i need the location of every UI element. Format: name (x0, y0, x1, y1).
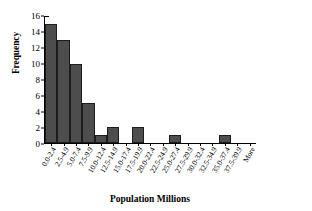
x-tick-label: More (242, 146, 257, 164)
bar-slot (181, 16, 193, 143)
bar (219, 135, 231, 143)
bar-slot (119, 16, 131, 143)
y-tick-mark (41, 128, 44, 129)
x-tick-slot: 2.5-4.9 (57, 146, 69, 192)
bar (70, 64, 82, 143)
x-tick-slot: 5.0-7.4 (70, 146, 82, 192)
histogram-chart: Frequency 0246810121416 0.0-2.42.5-4.95.… (0, 0, 312, 211)
bar-slot (82, 16, 94, 143)
bar (45, 24, 57, 143)
y-tick-mark (41, 112, 44, 113)
bar (107, 127, 119, 143)
x-axis-title: Population Millions (44, 194, 256, 204)
x-tick-slot: 0.0-2.4 (45, 146, 57, 192)
y-tick-mark (41, 32, 44, 33)
y-tick-label: 0 (10, 140, 44, 149)
bar (132, 127, 144, 143)
bar-slot (244, 16, 256, 143)
bar-slot (157, 16, 169, 143)
bar-slot (45, 16, 57, 143)
bar-slot (194, 16, 206, 143)
y-tick-label: 10 (10, 60, 44, 69)
x-axis-ticks: 0.0-2.42.5-4.95.0-7.47.5-9.910.0-12.412.… (45, 146, 256, 192)
bar (169, 135, 181, 143)
bar-series (45, 16, 256, 143)
y-tick-label: 2 (10, 124, 44, 133)
plot-area: 0246810121416 (44, 16, 256, 144)
bar (57, 40, 69, 143)
y-tick-label: 16 (10, 12, 44, 21)
bar-slot (70, 16, 82, 143)
y-tick-mark (41, 64, 44, 65)
y-tick-mark (41, 80, 44, 81)
y-tick-mark (41, 144, 44, 145)
bar-slot (219, 16, 231, 143)
bar-slot (231, 16, 243, 143)
bar-slot (57, 16, 69, 143)
bar (95, 135, 107, 143)
bar-slot (144, 16, 156, 143)
bar-slot (169, 16, 181, 143)
y-tick-mark (41, 48, 44, 49)
x-tick-slot: 37.5-39.9 (231, 146, 243, 192)
x-tick-slot: More (244, 146, 256, 192)
y-tick-label: 8 (10, 76, 44, 85)
bar-slot (206, 16, 218, 143)
y-tick-mark (41, 96, 44, 97)
y-tick-label: 4 (10, 108, 44, 117)
y-tick-label: 14 (10, 28, 44, 37)
y-tick-label: 12 (10, 44, 44, 53)
y-tick-label: 6 (10, 92, 44, 101)
bar-slot (132, 16, 144, 143)
bar-slot (107, 16, 119, 143)
bar (82, 103, 94, 143)
bar-slot (95, 16, 107, 143)
y-tick-mark (41, 16, 44, 17)
